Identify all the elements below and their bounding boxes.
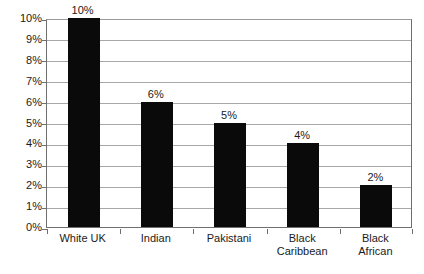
y-axis-tick — [42, 82, 47, 83]
y-axis-tick — [42, 208, 47, 209]
y-axis-tick — [42, 187, 47, 188]
y-axis-tick — [42, 103, 47, 104]
y-axis-tick-label: 3% — [2, 159, 42, 170]
y-axis-tick-label: 2% — [2, 180, 42, 191]
x-axis-label-line: Black — [332, 232, 418, 245]
x-axis-label-line: African — [332, 245, 418, 258]
y-axis-tick-label: 10% — [2, 13, 42, 24]
gridline — [47, 82, 411, 83]
bar — [68, 18, 100, 227]
y-axis-tick-label: 8% — [2, 55, 42, 66]
y-axis-tick — [42, 166, 47, 167]
y-axis-tick-label: 6% — [2, 97, 42, 108]
y-axis-tick — [42, 124, 47, 125]
x-axis-label-group: White UKIndianPakistaniBlackCaribbeanBla… — [46, 232, 412, 272]
bar-value-label: 6% — [134, 89, 178, 100]
y-axis-tick-label: 0% — [2, 222, 42, 233]
bar — [141, 102, 173, 227]
y-axis-tick-label: 1% — [2, 201, 42, 212]
gridline — [47, 40, 411, 41]
y-axis-tick — [42, 61, 47, 62]
x-axis-category-label: BlackAfrican — [332, 232, 418, 258]
gridline — [47, 61, 411, 62]
bar-value-label: 4% — [280, 130, 324, 141]
bar — [287, 143, 319, 227]
y-axis-tick — [42, 20, 47, 21]
bar — [360, 185, 392, 227]
y-axis-tick-label: 5% — [2, 118, 42, 129]
gridline — [47, 103, 411, 104]
y-axis-tick-label: 7% — [2, 76, 42, 87]
bar-value-label: 10% — [61, 5, 105, 16]
y-axis-label-group: 0%1%2%3%4%5%6%7%8%9%10% — [0, 19, 42, 228]
bar — [214, 123, 246, 228]
plot-area — [46, 19, 412, 228]
bar-value-label: 2% — [353, 172, 397, 183]
y-axis-tick-label: 9% — [2, 34, 42, 45]
y-axis-tick-label: 4% — [2, 138, 42, 149]
bar-value-label: 5% — [207, 110, 251, 121]
bar-chart: 0%1%2%3%4%5%6%7%8%9%10% 10%6%5%4%2% Whit… — [0, 0, 424, 274]
y-axis-tick — [42, 40, 47, 41]
y-axis-tick — [42, 145, 47, 146]
